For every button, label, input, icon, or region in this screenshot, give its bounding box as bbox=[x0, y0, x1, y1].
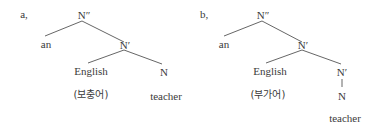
edge-b-root-an bbox=[224, 21, 262, 36]
edge-a-root-bar bbox=[82, 21, 124, 42]
node-a-root: N″ bbox=[78, 9, 91, 21]
node-b-root: N″ bbox=[257, 9, 270, 21]
node-b-adjunct-gloss: (부가어) bbox=[251, 89, 286, 101]
node-b-adjunct: English bbox=[253, 65, 287, 77]
tree-b-label: b, bbox=[200, 8, 208, 20]
node-b-bar2: N′ bbox=[337, 66, 347, 78]
node-a-complement-gloss: (보충어) bbox=[74, 89, 109, 101]
tree-a-label: a, bbox=[20, 8, 28, 20]
tree-edges bbox=[0, 0, 379, 127]
edge-b-bar-english bbox=[266, 50, 302, 63]
edge-a-root-an bbox=[45, 21, 82, 36]
node-b-determiner: an bbox=[219, 38, 229, 50]
node-b-word: teacher bbox=[329, 112, 361, 124]
edge-b-root-bar bbox=[262, 21, 302, 42]
node-b-bar: N′ bbox=[298, 39, 308, 51]
node-b-head: N bbox=[338, 90, 346, 102]
edge-b-bar-bar2 bbox=[302, 50, 341, 64]
node-a-head: N bbox=[160, 66, 168, 78]
node-a-complement: English bbox=[74, 65, 108, 77]
node-a-bar: N′ bbox=[120, 39, 130, 51]
edge-a-bar-english bbox=[88, 50, 124, 63]
node-a-determiner: an bbox=[41, 38, 51, 50]
edge-a-bar-n bbox=[124, 50, 162, 64]
node-a-word: teacher bbox=[150, 90, 182, 102]
